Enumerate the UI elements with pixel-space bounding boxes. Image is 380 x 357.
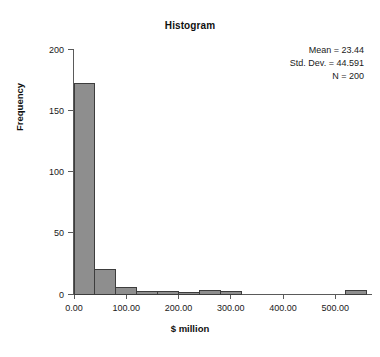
histogram-bar: [137, 292, 158, 294]
y-tick-label: 0: [59, 290, 64, 300]
x-tick-label: 500.00: [321, 303, 349, 313]
histogram-bar: [158, 292, 179, 294]
x-tick-label: 0.00: [65, 303, 83, 313]
plot-area: 050100150200 0.00100.00200.00300.00400.0…: [0, 0, 380, 357]
x-tick-label: 400.00: [269, 303, 297, 313]
x-tick-label: 200.00: [165, 303, 193, 313]
y-tick-label: 150: [49, 106, 64, 116]
y-tick-label: 50: [54, 228, 64, 238]
x-tick-label: 300.00: [217, 303, 245, 313]
histogram-bar: [220, 292, 241, 294]
histogram-bar: [95, 270, 116, 295]
histogram-bar: [74, 83, 95, 294]
histogram-figure: Histogram Mean = 23.44 Std. Dev. = 44.59…: [0, 0, 380, 357]
histogram-bar: [346, 290, 367, 294]
x-axis-ticks: 0.00100.00200.00300.00400.00500.00: [65, 294, 349, 313]
y-tick-label: 100: [49, 167, 64, 177]
x-tick-label: 100.00: [112, 303, 140, 313]
y-axis-ticks: 050100150200: [49, 45, 73, 300]
histogram-bar: [179, 293, 200, 294]
y-tick-label: 200: [49, 45, 64, 55]
histogram-bar: [199, 290, 220, 294]
histogram-bars: [74, 83, 367, 294]
histogram-bar: [116, 288, 137, 294]
